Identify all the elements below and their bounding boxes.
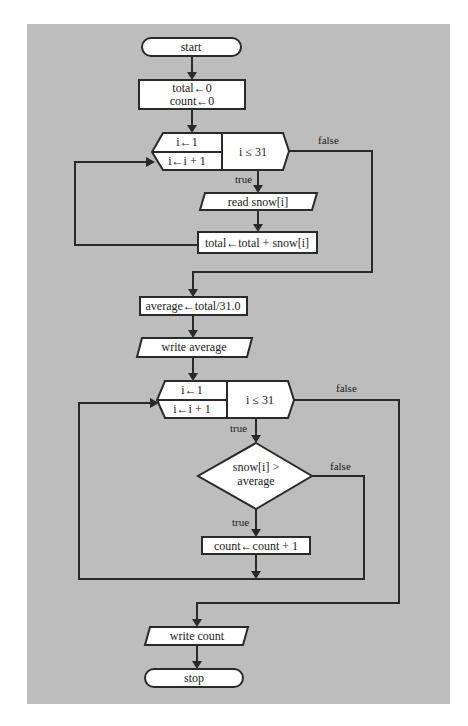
loop2-condition: i ≤ 31 (246, 393, 274, 407)
write-count-io: write count (145, 627, 248, 645)
decision-true-label: true (232, 516, 249, 528)
average-process: average←total/31.0 (140, 297, 247, 315)
read-io: read snow[i] (200, 193, 317, 210)
init-count: count←0 (170, 94, 215, 108)
accumulate-label: total←total + snow[i] (205, 236, 309, 250)
loop1-true-label: true (235, 173, 252, 185)
init-total: total←0 (172, 81, 211, 95)
loop1-init: i←1 (176, 135, 197, 149)
increment-label: count←count + 1 (214, 539, 298, 553)
loop1-update: i←i + 1 (168, 154, 205, 168)
flowchart: start total←0 count←0 i←1 i←i + 1 i ≤ 31… (0, 0, 468, 726)
loop2-false-label: false (336, 382, 357, 394)
write-count-label: write count (170, 629, 225, 643)
loop2-true-label: true (230, 422, 247, 434)
write-average-label: write average (162, 340, 227, 354)
loop1-false-label: false (318, 134, 339, 146)
stop-label: stop (184, 671, 204, 685)
init-process: total←0 count←0 (139, 80, 245, 109)
accumulate-process: total←total + snow[i] (198, 232, 317, 253)
write-average-io: write average (137, 338, 252, 357)
start-label: start (181, 40, 202, 54)
loop2-hexagon: i←1 i←i + 1 i ≤ 31 (157, 381, 294, 418)
decision-line2: average (237, 474, 274, 488)
read-label: read snow[i] (228, 195, 288, 209)
loop2-init: i←1 (181, 383, 202, 397)
increment-process: count←count + 1 (202, 537, 310, 554)
decision-line1: snow[i] > (233, 460, 280, 474)
stop-terminator: stop (145, 669, 243, 687)
start-terminator: start (142, 38, 241, 56)
decision-diamond: snow[i] > average (198, 443, 312, 509)
loop1-condition: i ≤ 31 (239, 145, 267, 159)
loop2-update: i←i + 1 (173, 402, 210, 416)
decision-false-label: false (330, 460, 351, 472)
average-label: average←total/31.0 (146, 299, 241, 313)
loop1-hexagon: i←1 i←i + 1 i ≤ 31 (152, 133, 289, 170)
